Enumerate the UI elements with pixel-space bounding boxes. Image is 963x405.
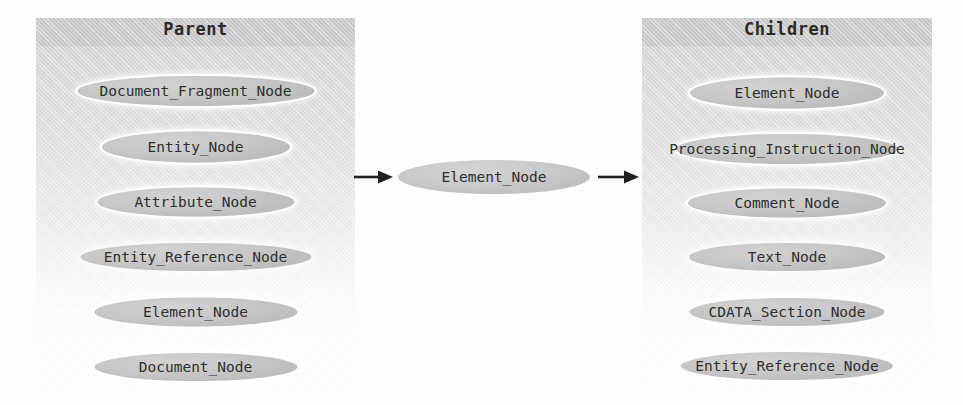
node-label: Element_Node [735, 85, 840, 101]
node-label: Element_Node [143, 304, 248, 320]
node-label: Entity_Reference_Node [695, 358, 878, 374]
node-label: Entity_Node [147, 139, 243, 155]
arrow-right-icon [354, 169, 394, 185]
parent-node-document-fragment: Document_Fragment_Node [36, 74, 355, 108]
node-label: Element_Node [442, 169, 547, 185]
parent-panel: Parent Document_Fragment_Node Entity_Nod… [36, 18, 355, 390]
node-label: Text_Node [748, 249, 827, 265]
parent-panel-title: Parent [36, 19, 355, 39]
children-panel: Children Element_Node Processing_Instruc… [642, 18, 932, 390]
node-label: Attribute_Node [134, 194, 256, 210]
node-label: Document_Fragment_Node [99, 83, 291, 99]
child-node-entity-reference: Entity_Reference_Node [642, 349, 932, 383]
node-label: Entity_Reference_Node [104, 249, 287, 265]
node-label: Processing_Instruction_Node [669, 141, 905, 157]
node-label: Comment_Node [735, 195, 840, 211]
child-node-comment: Comment_Node [642, 186, 932, 220]
child-node-text: Text_Node [642, 240, 932, 274]
center-node-element: Element_Node [398, 160, 590, 194]
node-label: Document_Node [139, 359, 253, 375]
children-panel-title: Children [642, 19, 932, 39]
child-node-element: Element_Node [642, 76, 932, 110]
node-label: CDATA_Section_Node [708, 304, 865, 320]
parent-node-attribute: Attribute_Node [36, 185, 355, 219]
diagram-canvas: Parent Document_Fragment_Node Entity_Nod… [0, 0, 963, 405]
arrow-right-icon [598, 169, 640, 185]
parent-node-document: Document_Node [36, 350, 355, 384]
parent-node-entity: Entity_Node [36, 130, 355, 164]
child-node-cdata-section: CDATA_Section_Node [642, 295, 932, 329]
parent-node-entity-reference: Entity_Reference_Node [36, 240, 355, 274]
parent-node-element: Element_Node [36, 295, 355, 329]
child-node-processing-instruction: Processing_Instruction_Node [642, 132, 932, 166]
